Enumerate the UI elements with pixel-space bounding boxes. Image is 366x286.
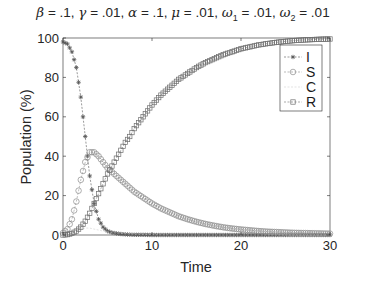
y-tick-label: 40: [45, 149, 59, 164]
y-tick-label: 100: [37, 31, 59, 46]
x-axis-label: Time: [180, 259, 212, 275]
legend-label: C: [306, 79, 316, 95]
chart-plot: 0102030 020406080100 Time Population (%)…: [0, 0, 366, 286]
x-tick-label: 0: [59, 238, 66, 253]
x-tick-label: 30: [323, 238, 337, 253]
y-axis-label: Population (%): [18, 89, 34, 184]
legend-label: R: [306, 94, 316, 110]
legend: ISCR: [280, 45, 322, 111]
legend-label: S: [306, 64, 315, 80]
y-tick-label: 20: [45, 188, 59, 203]
y-tick-label: 80: [45, 70, 59, 85]
x-tick-label: 20: [234, 238, 248, 253]
y-tick-label: 60: [45, 109, 59, 124]
y-tick-label: 0: [52, 228, 59, 243]
x-tick-label: 10: [145, 238, 159, 253]
legend-label: I: [306, 49, 310, 65]
